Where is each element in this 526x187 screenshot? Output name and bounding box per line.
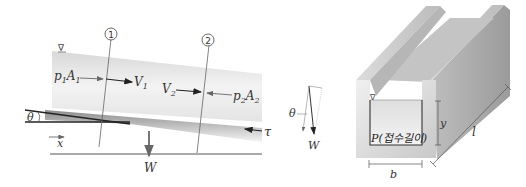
- weight-component-triangle: θ W: [289, 86, 322, 152]
- triangle-w-label: W: [308, 139, 321, 152]
- triangle-theta-label: θ: [289, 107, 296, 120]
- depth-label: y: [439, 117, 447, 130]
- tangent-component: [309, 86, 322, 88]
- triangle-side: [315, 88, 322, 132]
- x-axis-label: x: [57, 137, 64, 150]
- water-body: [52, 51, 262, 122]
- diagram-canvas: θ x 1 2 ∇ p1A1 V1 V2 p2A2 τ: [0, 0, 526, 187]
- theta-label: θ: [27, 111, 34, 124]
- channel-free-surface-symbol: ∇: [369, 93, 376, 102]
- free-surface-symbol: ∇: [57, 43, 65, 53]
- weight-vector: [309, 86, 314, 134]
- width-label: b: [390, 168, 397, 181]
- theta-arc: [38, 112, 40, 121]
- section-2-label: 2: [205, 36, 211, 46]
- rectangular-channel-3d: ∇ P(접수길이) y b l: [356, 5, 511, 181]
- tau-label: τ: [264, 124, 272, 139]
- channel-flow-control-volume: θ x 1 2 ∇ p1A1 V1 V2 p2A2 τ: [25, 28, 272, 175]
- normal-component: [303, 86, 309, 131]
- section-1-label: 1: [108, 30, 114, 40]
- weight-label: W: [144, 161, 158, 175]
- wetted-perimeter-label: P(접수길이): [370, 132, 427, 145]
- length-label: l: [472, 125, 476, 139]
